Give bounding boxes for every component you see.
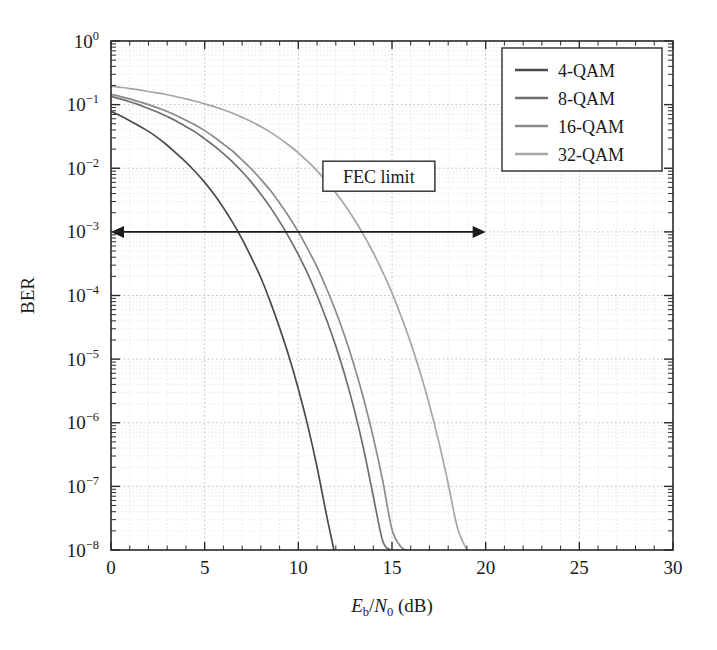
legend-label-16-qam: 16-QAM (558, 117, 624, 137)
x-axis-title: Eb/N0 (dB) (350, 595, 433, 619)
series-lines (111, 86, 467, 550)
legend-label-8-qam: 8-QAM (558, 89, 615, 109)
x-tick-label: 5 (200, 557, 210, 578)
legend-label-32-qam: 32-QAM (558, 145, 624, 165)
series-line-4-qam (111, 111, 334, 550)
y-tick-label: 10−4 (67, 283, 100, 306)
y-tick-label: 10−8 (67, 538, 99, 561)
y-tick-label: 10−7 (67, 474, 99, 497)
y-tick-label: 10−3 (67, 219, 99, 242)
x-tick-label: 25 (570, 557, 589, 578)
x-tick-label: 0 (106, 557, 116, 578)
y-tick-label: 10−6 (67, 410, 99, 433)
x-tick-label: 30 (664, 557, 683, 578)
x-tick-label: 10 (289, 557, 308, 578)
fec-limit-label: FEC limit (343, 167, 415, 187)
x-tick-label: 15 (383, 557, 402, 578)
chart-legend: 4-QAM8-QAM16-QAM32-QAM (502, 48, 662, 171)
y-axis-title: BER (17, 277, 38, 314)
legend-label-4-qam: 4-QAM (558, 61, 615, 81)
chart-figure: FEC limit 05101520253010010−110−210−310−… (0, 0, 717, 650)
y-tick-label: 100 (74, 29, 99, 52)
ber-vs-ebno-chart: FEC limit 05101520253010010−110−210−310−… (0, 0, 717, 650)
y-tick-label: 10−2 (67, 156, 99, 179)
y-tick-label: 10−5 (67, 347, 99, 370)
series-line-32-qam (111, 86, 467, 550)
y-tick-label: 10−1 (67, 92, 99, 115)
x-tick-label: 20 (476, 557, 495, 578)
